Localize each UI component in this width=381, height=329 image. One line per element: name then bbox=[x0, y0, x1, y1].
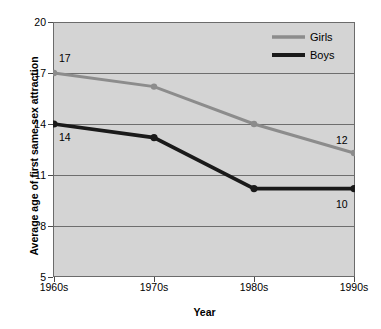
y-axis-tick-label-14: 14 bbox=[18, 118, 46, 130]
series-line-boys bbox=[54, 124, 354, 189]
legend-item-boys[interactable]: Boys bbox=[272, 46, 334, 64]
legend-label-boys: Boys bbox=[310, 49, 334, 61]
x-axis-tick-label-1970s: 1970s bbox=[119, 281, 189, 293]
data-point-girls bbox=[151, 83, 157, 89]
series-line-girls bbox=[54, 73, 354, 153]
data-point-boys bbox=[53, 120, 58, 127]
data-label-girls-start: 17 bbox=[59, 52, 71, 64]
y-axis-tick-label-8: 8 bbox=[18, 220, 46, 232]
data-point-boys bbox=[350, 185, 355, 192]
y-axis-tick-label-20: 20 bbox=[18, 16, 46, 28]
y-axis-title: Average age of first same-sex attraction bbox=[28, 26, 40, 286]
legend: Girls Boys bbox=[272, 28, 334, 64]
y-axis-tick-label-11: 11 bbox=[18, 169, 46, 181]
x-axis-title: Year bbox=[53, 306, 356, 318]
x-axis-tick-label-1960s: 1960s bbox=[19, 281, 89, 293]
data-label-boys-start: 14 bbox=[59, 131, 71, 143]
legend-swatch-girls bbox=[272, 32, 305, 42]
data-point-boys bbox=[150, 134, 157, 141]
legend-swatch-boys bbox=[272, 50, 305, 60]
x-axis-tick-label-1980s: 1980s bbox=[219, 281, 289, 293]
x-axis-tick-label-1990s: 1990s bbox=[319, 281, 381, 293]
data-label-boys-end: 10 bbox=[336, 198, 348, 210]
data-point-girls bbox=[251, 121, 257, 127]
legend-item-girls[interactable]: Girls bbox=[272, 28, 334, 46]
legend-label-girls: Girls bbox=[310, 31, 333, 43]
data-point-girls bbox=[53, 70, 57, 76]
y-axis-tick-label-17: 17 bbox=[18, 67, 46, 79]
y-axis-tick-mark bbox=[48, 277, 53, 278]
chart-container: Average age of first same-sex attraction… bbox=[0, 0, 381, 329]
data-label-girls-end: 12 bbox=[336, 134, 348, 146]
data-point-boys bbox=[250, 185, 257, 192]
